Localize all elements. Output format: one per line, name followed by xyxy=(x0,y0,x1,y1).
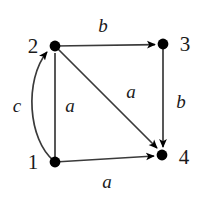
node-label-2: 2 xyxy=(28,36,39,57)
edge-label-2-to-3: b xyxy=(98,16,108,35)
node-label-4: 4 xyxy=(179,147,190,168)
edge-label-3-to-4: b xyxy=(176,92,186,111)
node-1[interactable] xyxy=(50,157,61,168)
node-2[interactable] xyxy=(50,41,61,52)
node-label-3: 3 xyxy=(180,34,191,55)
edge-label-1-to-2-curved: c xyxy=(13,96,21,115)
node-label-1: 1 xyxy=(28,152,39,173)
edge-1-to-2-curved xyxy=(32,52,54,161)
edge-label-1-to-2-straight: a xyxy=(65,96,75,115)
node-4[interactable] xyxy=(157,150,168,161)
node-3[interactable] xyxy=(158,39,169,50)
edge-2-to-3 xyxy=(55,45,155,46)
edge-1-to-4 xyxy=(55,156,154,162)
edge-label-1-to-4: a xyxy=(102,172,112,191)
edge-label-2-to-4: a xyxy=(126,82,136,101)
directed-graph-figure: 2 3 1 4 b a c a b a xyxy=(0,0,200,198)
